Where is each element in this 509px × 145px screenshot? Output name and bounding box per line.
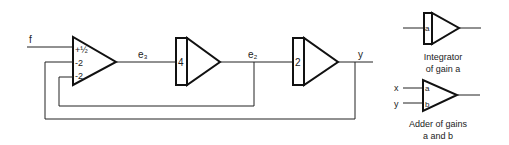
legend-integrator-triangle <box>432 13 459 44</box>
y-label: y <box>358 49 363 60</box>
legend-adder-gain-a: a <box>425 84 430 93</box>
integrator-1-gain: 4 <box>178 57 184 68</box>
integrator-2-gain: 2 <box>295 57 301 68</box>
legend-adder-caption-2: a and b <box>423 131 453 141</box>
amp-gain-1: +½ <box>75 45 88 55</box>
amp-gain-2: -2 <box>75 58 83 68</box>
legend-integrator-caption-1: Integrator <box>424 52 463 62</box>
legend-adder-y-label: y <box>394 99 399 109</box>
legend-adder-caption-1: Adder of gains <box>409 119 468 129</box>
legend-adder-x-label: x <box>394 83 399 93</box>
legend-integrator-caption-2: of gain a <box>426 64 461 74</box>
amp-gain-3: -2 <box>75 71 83 81</box>
block-diagram: f +½ -2 -2 e₃ 4 e₂ 2 y a Integrator of g… <box>0 0 509 145</box>
legend-adder-gain-b: b <box>425 100 430 109</box>
integrator-2-triangle <box>304 38 338 85</box>
e2-label: e₂ <box>248 49 258 60</box>
legend-integrator-gain: a <box>425 24 430 33</box>
integrator-1-triangle <box>187 38 220 85</box>
input-f-label: f <box>29 34 32 45</box>
e3-label: e₃ <box>138 49 148 60</box>
